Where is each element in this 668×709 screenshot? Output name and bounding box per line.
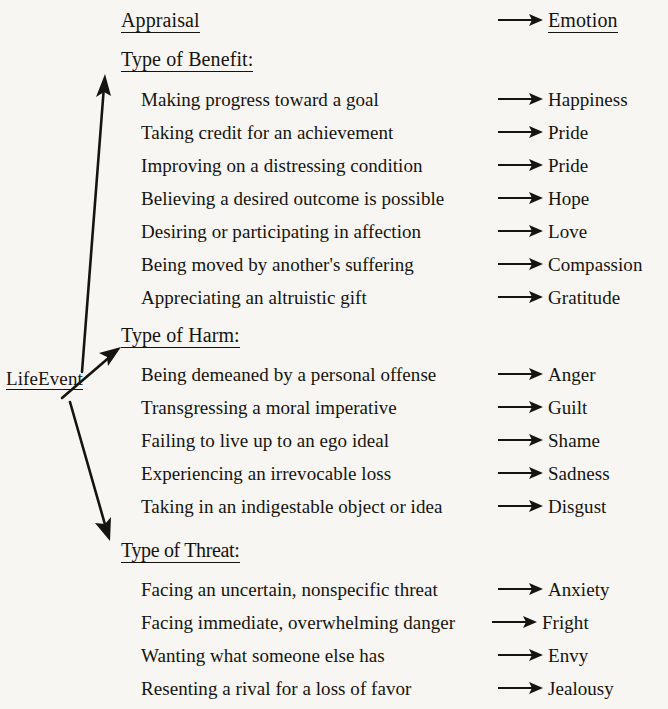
root-node-lifeevent: LifeEvent: [6, 369, 83, 390]
appraisal-text: Facing an uncertain, nonspecific threat: [141, 580, 438, 599]
emotion-label: Envy: [548, 646, 588, 665]
section-header-harm: Type of Harm:: [121, 325, 240, 348]
emotion-label: Hope: [548, 189, 589, 208]
emotion-label: Anger: [548, 365, 596, 384]
mapping-arrow: [498, 467, 543, 479]
emotion-label: Love: [548, 222, 587, 241]
appraisal-text: Taking credit for an achievement: [141, 123, 393, 142]
mapping-arrow: [498, 126, 543, 138]
mapping-arrow: [498, 583, 543, 595]
emotion-label: Pride: [548, 156, 588, 175]
emotion-label: Sadness: [548, 464, 610, 483]
mapping-arrow: [498, 225, 543, 237]
emotion-label: Fright: [542, 613, 589, 632]
appraisal-text: Being moved by another's suffering: [141, 255, 414, 274]
mapping-arrow: [498, 291, 543, 303]
column-header-emotion: Emotion: [548, 10, 618, 33]
mapping-arrow: [492, 616, 537, 628]
emotion-label: Shame: [548, 431, 600, 450]
branch-arrow-to-benefit: [82, 74, 111, 372]
appraisal-text: Believing a desired outcome is possible: [141, 189, 444, 208]
emotion-label: Anxiety: [548, 580, 610, 599]
appraisal-text: Wanting what someone else has: [141, 646, 385, 665]
appraisal-text: Desiring or participating in affection: [141, 222, 421, 241]
emotion-label: Pride: [548, 123, 588, 142]
appraisal-text: Improving on a distressing condition: [141, 156, 423, 175]
appraisal-text: Transgressing a moral imperative: [141, 398, 397, 417]
emotion-label: Happiness: [548, 90, 628, 109]
mapping-arrow: [498, 401, 543, 413]
mapping-arrow: [498, 159, 543, 171]
appraisal-text: Resenting a rival for a loss of favor: [141, 679, 411, 698]
mapping-arrow: [498, 682, 543, 694]
appraisal-text: Appreciating an altruistic gift: [141, 288, 367, 307]
section-header-threat: Type of Threat:: [121, 540, 240, 563]
branch-arrow-to-threat: [70, 402, 111, 541]
appraisal-text: Making progress toward a goal: [141, 90, 379, 109]
mapping-arrow: [498, 649, 543, 661]
emotion-label: Disgust: [548, 497, 606, 516]
appraisal-emotion-diagram: LifeEvent Appraisal Emotion Type of Bene…: [0, 0, 668, 709]
mapping-arrow: [498, 368, 543, 380]
appraisal-text: Facing immediate, overwhelming danger: [141, 613, 455, 632]
column-header-appraisal: Appraisal: [121, 10, 200, 33]
mapping-arrow: [498, 258, 543, 270]
emotion-label: Jealousy: [548, 679, 614, 698]
emotion-label: Guilt: [548, 398, 587, 417]
appraisal-text: Being demeaned by a personal offense: [141, 365, 436, 384]
appraisal-text: Taking in an indigestable object or idea: [141, 497, 442, 516]
appraisal-text: Experiencing an irrevocable loss: [141, 464, 391, 483]
section-header-benefit: Type of Benefit:: [121, 49, 253, 72]
mapping-arrow: [498, 500, 543, 512]
emotion-label: Compassion: [548, 255, 642, 274]
appraisal-text: Failing to live up to an ego ideal: [141, 431, 389, 450]
emotion-label: Gratitude: [548, 288, 620, 307]
mapping-arrow: [498, 192, 543, 204]
mapping-arrow: [498, 93, 543, 105]
mapping-arrow: [498, 14, 543, 26]
mapping-arrow: [498, 434, 543, 446]
